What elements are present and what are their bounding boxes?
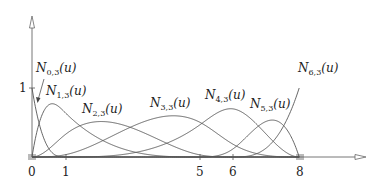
- x-tick-label-0: 0: [28, 165, 36, 179]
- y-axis-arrow-icon: [30, 16, 35, 28]
- label-pointer: [38, 79, 44, 100]
- basis-curve-n33: [32, 116, 299, 157]
- bspline-diagram: 1 0 1 5 6 8 N0,3(u) N1,3(u) N2,3(u) N3,3…: [0, 0, 382, 183]
- y-tick-label: 1: [19, 81, 27, 95]
- pointer-arrow-icon: [36, 97, 41, 103]
- x-axis-arrow-icon: [355, 155, 366, 160]
- x-tick-label-6: 6: [229, 165, 237, 179]
- x-tick-label-5: 5: [196, 165, 204, 179]
- x-tick-label-1: 1: [62, 165, 70, 179]
- basis-curve-n53: [32, 120, 299, 157]
- label-n33: N3,3(u): [149, 96, 191, 112]
- label-n03: N0,3(u): [35, 61, 77, 77]
- label-n53: N5,3(u): [249, 97, 291, 113]
- label-n23: N2,3(u): [81, 102, 123, 118]
- label-n63: N6,3(u): [297, 61, 339, 77]
- x-tick-label-8: 8: [296, 165, 304, 179]
- label-n13: N1,3(u): [45, 84, 87, 100]
- label-n43: N4,3(u): [204, 88, 246, 104]
